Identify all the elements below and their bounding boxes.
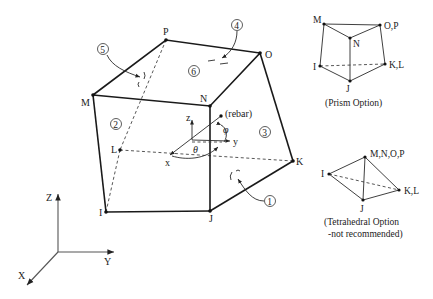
node-M: [91, 93, 95, 97]
prism-top-face: [324, 24, 380, 38]
face-5-leader-arrow: [107, 55, 140, 77]
tetra-node-MNOP: [363, 155, 366, 158]
global-x-axis: [27, 252, 58, 285]
prism-node-N: [348, 36, 351, 39]
face-4-leader-arrow: [222, 31, 237, 58]
edge-I-J: [106, 211, 210, 212]
prism-label-J: J: [346, 84, 350, 94]
prism-label-OP: O,P: [384, 21, 399, 31]
prism-node-OP: [378, 23, 381, 26]
prism-option-diagram: M N O,P I J K,L (Prism Option): [313, 15, 404, 109]
node-I: [104, 210, 108, 214]
node-L: [118, 148, 122, 152]
prism-node-KL: [383, 62, 386, 65]
prism-node-M: [322, 22, 325, 25]
prism-option-caption: (Prism Option): [325, 98, 382, 109]
element-geometry-diagram: P O M N L I J K 2 6 3 4 5 1: [0, 0, 433, 299]
face-3-marker: 3: [260, 127, 271, 138]
prism-bottom-edges: [320, 64, 385, 81]
edge-O-K: [260, 53, 293, 161]
local-x-label: x: [165, 157, 170, 168]
node-K: [291, 159, 295, 163]
tetra-node-J: [361, 198, 364, 201]
face-5-marker: 5: [98, 44, 109, 55]
face-1-leader-arrow: [238, 179, 264, 201]
tetra-label-MNOP: M,N,O,P: [370, 149, 405, 159]
label-J: J: [209, 213, 213, 224]
rebar-endpoint: [219, 114, 222, 117]
svg-text:5: 5: [100, 45, 105, 55]
label-L: L: [111, 144, 117, 155]
svg-text:4: 4: [234, 21, 239, 31]
node-N: [208, 104, 212, 108]
label-I: I: [99, 207, 102, 218]
svg-text:6: 6: [191, 67, 196, 77]
global-axes: Z Y X: [18, 192, 114, 285]
label-N: N: [200, 93, 207, 104]
edge-J-K: [210, 161, 293, 211]
edge-L-I: [106, 150, 120, 212]
label-K: K: [296, 156, 304, 167]
face-5-tick-icon: [138, 72, 145, 87]
node-O: [258, 51, 262, 55]
node-P: [164, 38, 168, 42]
prism-node-I: [318, 64, 321, 67]
local-coordinate-system: z y x θ φ (rebar): [165, 108, 252, 168]
tetra-edge-MNOP-J: [363, 157, 365, 200]
face-6-marker: 6: [189, 66, 200, 77]
tetra-node-I: [327, 172, 330, 175]
face-1-tick-icon: [230, 170, 240, 180]
main-solid-element: P O M N L I J K 2 6 3 4 5 1: [81, 20, 304, 225]
face-1-marker: 1: [265, 196, 276, 207]
face-4-marker: 4: [232, 20, 243, 31]
label-M: M: [81, 97, 90, 108]
global-x-label: X: [18, 270, 26, 281]
local-z-label: z: [186, 112, 191, 123]
face-2-marker: 2: [111, 119, 122, 130]
tetra-label-I: I: [321, 169, 324, 179]
tetrahedral-option-diagram: M,N,O,P I J K,L (Tetrahedral Option -not…: [321, 149, 419, 240]
edge-M-I: [93, 95, 106, 212]
phi-label: φ: [223, 124, 229, 135]
global-z-label: Z: [46, 192, 52, 203]
prism-label-M: M: [313, 15, 322, 25]
tetra-label-J: J: [360, 204, 364, 214]
global-y-label: Y: [104, 256, 111, 267]
rebar-label: (rebar): [225, 108, 252, 120]
face-4-tick-icon: [208, 60, 228, 64]
prism-edge-M-I: [320, 24, 324, 66]
prism-label-I: I: [313, 62, 316, 72]
local-y-label: y: [233, 136, 238, 147]
prism-label-N: N: [353, 39, 360, 49]
top-face-edges: [93, 40, 260, 106]
tetra-label-KL: K,L: [404, 186, 419, 196]
tetra-caption-line2: -not recommended): [328, 229, 403, 240]
edge-L-K: [120, 150, 293, 161]
theta-label: θ: [193, 144, 198, 155]
svg-text:1: 1: [267, 197, 272, 207]
prism-label-KL: K,L: [389, 60, 404, 70]
tetra-caption-line1: (Tetrahedral Option: [324, 217, 399, 228]
prism-edge-I-KL: [320, 64, 385, 66]
label-P: P: [163, 26, 169, 37]
svg-text:2: 2: [113, 120, 118, 130]
label-O: O: [265, 49, 272, 60]
prism-node-J: [348, 79, 351, 82]
tetra-node-KL: [397, 188, 400, 191]
svg-text:3: 3: [262, 128, 267, 138]
